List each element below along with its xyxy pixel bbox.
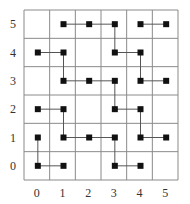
graph-node <box>112 106 118 112</box>
graph-node <box>61 135 67 141</box>
x-axis-labels: 012345 <box>34 186 168 200</box>
y-axis-label: 1 <box>10 131 16 145</box>
x-axis-label: 5 <box>162 186 168 200</box>
x-axis-label: 3 <box>111 186 117 200</box>
graph-node <box>112 163 118 169</box>
x-axis-label: 0 <box>34 186 40 200</box>
graph-node <box>86 21 92 27</box>
graph-node <box>138 163 144 169</box>
graph-node <box>35 50 41 56</box>
y-axis-label: 0 <box>10 159 16 173</box>
graph-node <box>138 21 144 27</box>
x-axis-label: 1 <box>60 186 66 200</box>
graph-node <box>61 78 67 84</box>
graph-node <box>138 50 144 56</box>
graph-node <box>61 21 67 27</box>
graph-node <box>86 78 92 84</box>
graph-node <box>86 135 92 141</box>
graph-node <box>138 135 144 141</box>
graph-node <box>163 135 169 141</box>
graph-node <box>163 78 169 84</box>
graph-node <box>138 106 144 112</box>
graph-node <box>61 163 67 169</box>
y-axis-label: 3 <box>10 74 16 88</box>
graph-node <box>138 78 144 84</box>
graph-node <box>112 21 118 27</box>
y-axis-labels: 012345 <box>10 17 16 173</box>
y-axis-label: 5 <box>10 17 16 31</box>
x-axis-label: 2 <box>85 186 91 200</box>
graph-node <box>35 135 41 141</box>
graph-node <box>163 21 169 27</box>
y-axis-label: 2 <box>10 102 16 116</box>
x-axis-label: 4 <box>137 186 143 200</box>
grid-lines <box>24 10 178 180</box>
y-axis-label: 4 <box>10 46 16 60</box>
graph-node <box>61 106 67 112</box>
graph-node <box>112 135 118 141</box>
graph-node <box>35 163 41 169</box>
grid-graph-diagram: 012345 012345 <box>0 0 190 204</box>
graph-node <box>112 50 118 56</box>
graph-node <box>35 106 41 112</box>
graph-node <box>112 78 118 84</box>
graph-node <box>61 50 67 56</box>
